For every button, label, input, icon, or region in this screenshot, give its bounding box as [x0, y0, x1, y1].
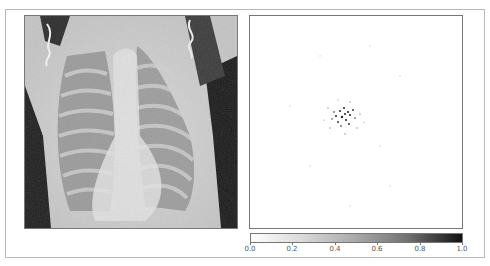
- colorbar-tick-label: 0.4: [329, 245, 340, 253]
- colorbar-tick-label: 0.2: [286, 245, 297, 253]
- colorbar-tick-label: 0.0: [244, 245, 255, 253]
- saliency-heatmap: [249, 15, 463, 229]
- chest-xray-image: [24, 15, 238, 229]
- colorbar-tick-label: 0.8: [414, 245, 425, 253]
- colorbar-tick-label: 1.0: [456, 245, 467, 253]
- colorbar-tick-label: 0.6: [371, 245, 382, 253]
- colorbar: [250, 233, 463, 243]
